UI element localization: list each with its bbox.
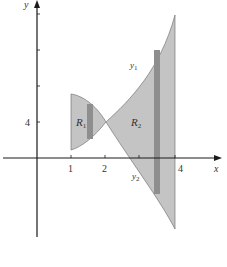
y-tick-label-4: 4 xyxy=(25,117,30,128)
x-tick-label-1: 1 xyxy=(68,163,73,174)
x-tick-label-2: 2 xyxy=(102,163,107,174)
area-between-curves-figure: 1 2 4 4 x y y1 y2 R1 R2 xyxy=(0,0,227,267)
x-tick-label-4: 4 xyxy=(178,163,183,174)
strip-r2 xyxy=(154,50,160,194)
curve-label-y2: y2 xyxy=(131,171,140,183)
x-axis-label: x xyxy=(213,163,219,174)
strip-r1 xyxy=(87,104,93,139)
curve-label-y1: y1 xyxy=(129,60,138,72)
y-axis-arrow-icon xyxy=(34,0,40,8)
y-axis-label: y xyxy=(23,0,29,10)
x-axis-arrow-icon xyxy=(214,155,222,161)
